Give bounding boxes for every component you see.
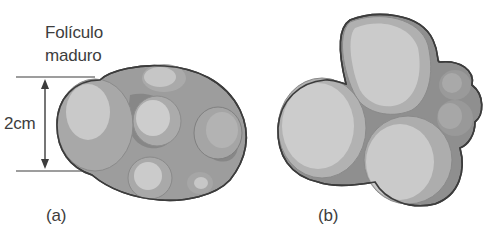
follicle-highlight bbox=[438, 103, 462, 129]
follicle-highlight bbox=[66, 84, 110, 140]
caption-a: (a) bbox=[46, 206, 66, 226]
arrow-down-icon bbox=[41, 159, 49, 169]
follicle-highlight bbox=[194, 177, 208, 189]
mature-follicle-label-line1: Folículo bbox=[45, 23, 103, 43]
ovary-b bbox=[278, 15, 482, 206]
follicle-highlight bbox=[134, 162, 162, 190]
dimension-label: 2cm bbox=[4, 114, 36, 134]
caption-b: (b) bbox=[318, 206, 338, 226]
follicle-highlight bbox=[136, 100, 170, 136]
follicle-highlight bbox=[442, 73, 462, 93]
mature-follicle-label-line2: maduro bbox=[45, 46, 101, 66]
ovary-a bbox=[16, 64, 246, 200]
arrow-up-icon bbox=[41, 79, 49, 89]
follicle-highlight bbox=[282, 83, 354, 169]
follicle-highlight bbox=[366, 124, 434, 200]
follicle-highlight bbox=[206, 112, 238, 148]
follicle-highlight bbox=[144, 67, 176, 87]
